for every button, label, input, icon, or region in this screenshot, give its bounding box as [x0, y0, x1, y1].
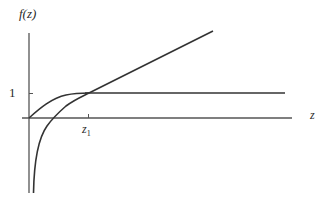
y-tick-label: 1	[9, 85, 16, 101]
z1-tick-label: z1	[82, 122, 91, 138]
z1-subscript: 1	[87, 129, 91, 138]
y-axis-label: f(z)	[19, 6, 36, 22]
diagram-canvas	[0, 0, 329, 201]
log-curve	[34, 31, 214, 193]
x-axis-label: z	[310, 108, 315, 123]
function-diagram: f(z) z 1 z1	[0, 0, 329, 201]
